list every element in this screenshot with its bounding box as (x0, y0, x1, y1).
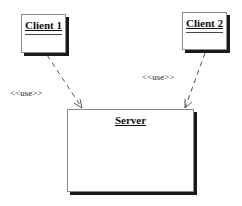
stereotype-label-client1: <<use>> (10, 88, 42, 98)
class-box-client1[interactable]: Client 1 (21, 14, 66, 53)
compartment-divider (186, 32, 223, 33)
class-name: Client 1 (22, 19, 65, 31)
dependency-edge-client1 (47, 55, 82, 108)
class-name: Client 2 (183, 17, 226, 29)
compartment-divider (25, 34, 62, 35)
stereotype-label-client2: <<use>> (142, 72, 174, 82)
dependency-edge-client2 (185, 53, 205, 108)
class-box-client2[interactable]: Client 2 (182, 12, 227, 50)
class-name: Server (68, 114, 193, 126)
class-box-server[interactable]: Server (67, 109, 194, 192)
